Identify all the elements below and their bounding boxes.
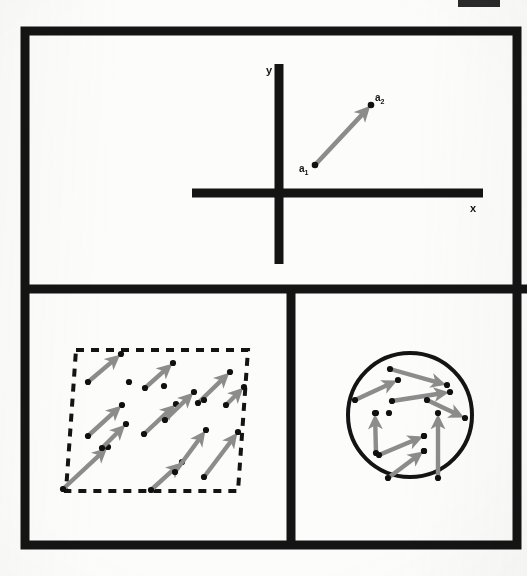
field-point (386, 410, 392, 416)
vector-head-point (444, 382, 450, 388)
vector-head-point (203, 427, 209, 433)
field-point (421, 448, 427, 454)
vector-tail-point (376, 452, 382, 458)
field-point (373, 410, 379, 416)
vector-tail-point (435, 475, 441, 481)
field-point (201, 397, 207, 403)
vector-head-point (170, 360, 176, 366)
vector-tail-point (85, 433, 91, 439)
vector-head-point (123, 421, 129, 427)
vector-tail-point (148, 487, 154, 493)
field-point (126, 379, 132, 385)
vector-tail-point (172, 469, 178, 475)
vector-head-point (119, 402, 125, 408)
top-edge-scan-mark (458, 0, 500, 7)
vector-tail-point (312, 162, 319, 169)
vector-head-point (435, 410, 441, 416)
vector-arrow (375, 419, 376, 453)
vector-tail-point (389, 398, 395, 404)
vector-head-point (191, 389, 197, 395)
vector-tail-point (162, 417, 168, 423)
vector-tail-point (141, 431, 147, 437)
vector-head-point (395, 377, 401, 383)
field-point (161, 383, 167, 389)
figure-root: x y a1 a2 (0, 0, 527, 576)
vector-head-point (368, 102, 375, 109)
vector-tail-point (387, 366, 393, 372)
vector-tail-point (352, 397, 358, 403)
vector-tail-point (60, 486, 66, 492)
vector-head-point (241, 384, 247, 390)
vector-head-point (118, 351, 124, 357)
vector-tail-point (201, 474, 207, 480)
vector-head-point (447, 389, 453, 395)
field-point (421, 433, 427, 439)
vector-tail-point (223, 402, 229, 408)
x-axis-label: x (470, 202, 477, 214)
vector-tail-point (99, 445, 105, 451)
vector-tail-point (85, 379, 91, 385)
figure-svg: x y a1 a2 (0, 0, 527, 576)
vector-head-point (227, 369, 233, 375)
vector-tail-point (195, 400, 201, 406)
vector-tail-point (142, 385, 148, 391)
vector-tail-point (385, 475, 391, 481)
vector-head-point (462, 415, 468, 421)
vector-tail-point (424, 397, 430, 403)
vector-head-point (235, 429, 241, 435)
y-axis-label: y (266, 64, 273, 76)
